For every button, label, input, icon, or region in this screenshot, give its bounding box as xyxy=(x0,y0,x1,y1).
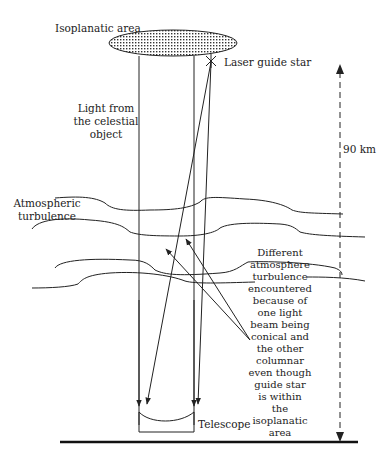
svg-text:Atmospheric: Atmospheric xyxy=(12,197,80,209)
svg-text:encountered: encountered xyxy=(248,283,312,294)
celestial-light-label: Light from the celestial object xyxy=(74,102,139,140)
annotation-arrow-2 xyxy=(186,239,250,340)
svg-text:area: area xyxy=(269,427,292,438)
svg-text:turbulence: turbulence xyxy=(18,210,76,222)
distance-arrow-down-icon xyxy=(336,432,344,442)
svg-text:the other: the other xyxy=(257,343,304,354)
svg-text:even though: even though xyxy=(249,367,312,378)
adaptive-optics-diagram: Isoplanatic area Laser guide star Light … xyxy=(0,0,389,466)
turbulence-note: Different atmosphere turbulence encounte… xyxy=(248,247,312,438)
svg-text:isoplanatic: isoplanatic xyxy=(252,415,308,426)
laser-guide-star-label: Laser guide star xyxy=(224,56,312,68)
distance-label: 90 km xyxy=(343,143,376,155)
telescope-label: Telescope xyxy=(198,418,251,430)
svg-text:columnar: columnar xyxy=(256,355,304,366)
svg-text:one light: one light xyxy=(258,307,303,318)
atmospheric-turbulence-label: Atmospheric turbulence xyxy=(12,197,80,222)
svg-text:Light from: Light from xyxy=(78,102,135,114)
svg-text:atmosphere: atmosphere xyxy=(250,259,310,270)
svg-text:object: object xyxy=(90,128,123,140)
svg-text:because of: because of xyxy=(253,295,309,306)
svg-text:beam being: beam being xyxy=(250,319,310,330)
svg-text:guide star: guide star xyxy=(254,379,306,390)
svg-text:Different: Different xyxy=(257,247,302,258)
svg-text:the celestial: the celestial xyxy=(74,115,139,127)
annotation-arrow-1 xyxy=(166,249,250,340)
laser-beam-left xyxy=(147,62,211,404)
distance-arrow-up-icon xyxy=(336,64,344,74)
turbulence-layers xyxy=(32,197,365,288)
telescope-icon xyxy=(139,412,194,432)
svg-text:turbulence: turbulence xyxy=(252,271,307,282)
svg-text:the: the xyxy=(272,403,288,414)
isoplanatic-area-label: Isoplanatic area xyxy=(55,22,141,34)
svg-text:is within: is within xyxy=(258,391,302,402)
svg-text:conical and: conical and xyxy=(251,331,310,342)
